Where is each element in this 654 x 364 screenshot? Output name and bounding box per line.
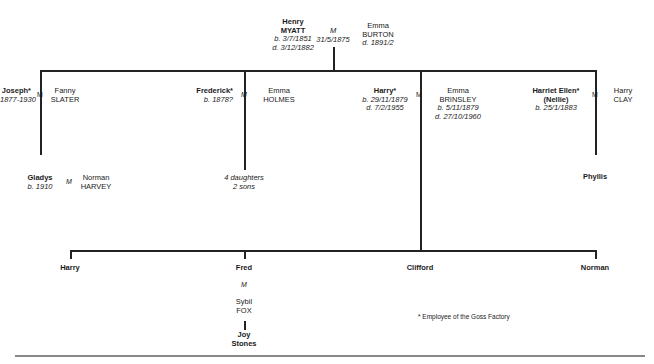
frederick-marriage: M xyxy=(241,91,247,98)
fanny-slater: Fanny SLATER xyxy=(48,87,82,104)
root-descent-line xyxy=(333,47,335,70)
fred: Fred xyxy=(224,264,264,273)
emma-holmes: Emma HOLMES xyxy=(262,87,296,104)
norman-harvey: Norman HARVEY xyxy=(78,174,114,191)
frederick-children: 4 daughters 2 sons xyxy=(214,174,274,191)
gen3-sibling-line xyxy=(70,250,596,252)
harriet-marriage: M xyxy=(592,91,598,98)
frederick-line xyxy=(244,70,246,170)
harry: Harry* b. 29/11/1879 d. 7/2/1955 xyxy=(362,87,408,113)
joseph-marriage: M xyxy=(37,91,43,98)
harriet-ellen: Harriet Ellen* (Nellie) b. 25/1/1883 xyxy=(525,87,587,113)
norman-tick xyxy=(595,250,597,259)
joseph-line xyxy=(40,70,42,155)
gladys: Gladys b. 1910 xyxy=(23,174,57,191)
phyllis: Phyllis xyxy=(575,173,615,182)
gladys-marriage: M xyxy=(66,178,72,185)
harry-jr-tick xyxy=(70,250,72,259)
harriet-line xyxy=(595,70,597,155)
emma-brinsley: Emma BRINSLEY b. 5/11/1879 d. 27/10/1960 xyxy=(431,87,485,121)
sybil-fox: Sybil FOX xyxy=(224,298,264,315)
clifford: Clifford xyxy=(400,264,440,273)
root-marriage: M 31/5/1875 xyxy=(315,27,351,44)
norman: Norman xyxy=(575,264,615,273)
harry-jr: Harry xyxy=(50,264,90,273)
gen2-sibling-line xyxy=(40,70,596,72)
frederick: Frederick* b. 1878? xyxy=(180,87,233,104)
fred-child-line xyxy=(244,321,246,330)
joy-stones: Joy Stones xyxy=(224,331,264,348)
fred-tick xyxy=(244,250,246,259)
harry-clay: Harry CLAY xyxy=(606,87,640,104)
emma-burton: Emma BURTON d. 1891/2 xyxy=(356,22,400,48)
bottom-rule xyxy=(15,355,645,357)
harry-marriage: M xyxy=(416,91,422,98)
henry-myatt: Henry MYATT b. 3/7/1851 d. 3/12/1882 xyxy=(268,18,318,52)
footnote: * Employee of the Goss Factory xyxy=(418,313,510,320)
joseph: Joseph* 1877-1930 xyxy=(0,87,31,104)
fred-marriage: M xyxy=(241,281,247,288)
